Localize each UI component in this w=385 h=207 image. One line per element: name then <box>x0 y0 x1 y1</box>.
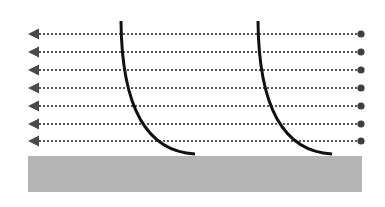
source-dot-icon <box>357 102 364 109</box>
source-dot-icon <box>357 30 364 37</box>
flow-diagram <box>0 0 385 207</box>
source-dot-icon <box>357 48 364 55</box>
source-dot-icon <box>357 137 364 144</box>
source-dot-icon <box>357 84 364 91</box>
source-dot-icon <box>357 120 364 127</box>
ground-band <box>28 156 362 192</box>
source-dot-icon <box>357 66 364 73</box>
